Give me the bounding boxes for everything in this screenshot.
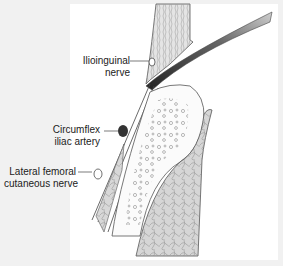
label-ilioinguinal-nerve: Ilioinguinal nerve [80,55,130,79]
anatomical-figure: Ilioinguinal nerve Circumflex iliac arte… [0,0,283,266]
label-line: Circumflex [44,124,100,136]
lateral-femoral-cutaneous-nerve-marker [78,169,102,179]
label-lateral-femoral-cutaneous-nerve: Lateral femoral cutaneous nerve [4,166,76,190]
ilioinguinal-nerve-marker [130,58,155,66]
label-line: nerve [80,67,130,79]
anatomy-drawing [0,0,283,266]
circumflex-iliac-artery [104,125,128,137]
label-line: cutaneous nerve [4,178,76,190]
label-line: iliac artery [44,136,100,148]
label-line: Ilioinguinal [80,55,130,67]
label-line: Lateral femoral [4,166,76,178]
label-circumflex-iliac-artery: Circumflex iliac artery [44,124,100,148]
